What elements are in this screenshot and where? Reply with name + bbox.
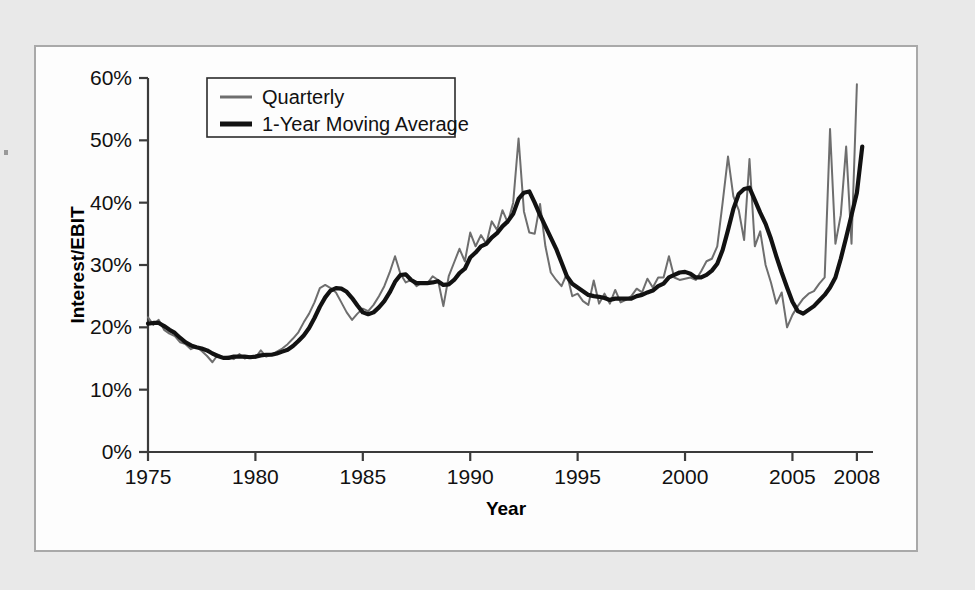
- y-axis-tick-labels: 0%10%20%30%40%50%60%: [90, 66, 132, 463]
- y-tick-label: 60%: [90, 66, 132, 89]
- chart-legend: Quarterly1-Year Moving Average: [207, 78, 469, 137]
- y-axis-ticks: [139, 78, 148, 452]
- x-tick-label: 2000: [662, 465, 709, 488]
- x-tick-label: 1990: [447, 465, 494, 488]
- series-line: [148, 147, 862, 358]
- x-tick-label: 2008: [834, 465, 881, 488]
- legend-label: 1-Year Moving Average: [262, 113, 469, 135]
- x-tick-label: 1985: [339, 465, 386, 488]
- figure-background: 0%10%20%30%40%50%60% 1975198019851990199…: [0, 0, 975, 590]
- x-tick-label: 2005: [769, 465, 816, 488]
- legend-label: Quarterly: [262, 86, 344, 108]
- y-tick-label: 40%: [90, 191, 132, 214]
- x-axis-ticks: [148, 452, 857, 461]
- y-tick-label: 30%: [90, 253, 132, 276]
- y-tick-label: 0%: [102, 440, 132, 463]
- x-tick-label: 1980: [232, 465, 279, 488]
- chart-plot: 0%10%20%30%40%50%60% 1975198019851990199…: [0, 0, 975, 590]
- y-tick-label: 50%: [90, 128, 132, 151]
- x-axis-tick-labels: 19751980198519901995200020052008: [125, 465, 881, 488]
- y-tick-label: 10%: [90, 378, 132, 401]
- x-axis-title: Year: [486, 498, 527, 519]
- x-tick-label: 1995: [554, 465, 601, 488]
- x-tick-label: 1975: [125, 465, 172, 488]
- y-tick-label: 20%: [90, 315, 132, 338]
- y-axis-title: Interest/EBIT: [67, 206, 88, 324]
